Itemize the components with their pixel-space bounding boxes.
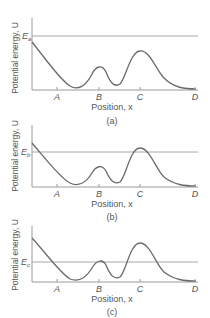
tick-label-b: B [96,284,102,294]
x-axis-label: Position, x [91,294,133,304]
tick-label-c: C [137,92,144,102]
y-axis-label: Potential energy, U [10,22,20,94]
y-axis-label: Potential energy, U [10,219,20,291]
tick-label-b: B [96,92,102,102]
energy-label-b: Eb [21,147,31,158]
tick-label-b: B [96,189,102,199]
tick-label-a: A [53,284,60,294]
panel-b: Potential energy, U Eb A B C D Position,… [10,120,199,222]
tick-label-a: A [53,92,60,102]
tick-label-c: C [137,189,144,199]
panel-c: Potential energy, U Ec A B C D Position,… [10,219,199,317]
potential-curve-c [32,238,196,281]
y-axis-label: Potential energy, U [10,120,20,192]
tick-label-d: D [192,189,199,199]
x-axis-label: Position, x [91,199,133,209]
tick-label-c: C [137,284,144,294]
energy-label-a: Ea [22,31,32,42]
caption-b: (b) [107,212,118,222]
potential-energy-diagram: Potential energy, U Ea A B C D Position,… [0,0,210,318]
panel-a: Potential energy, U Ea A B C D Position,… [10,18,199,126]
energy-label-c: Ec [21,257,30,268]
x-axis-label: Position, x [91,102,133,112]
potential-curve-b [32,143,196,186]
caption-a: (a) [107,116,118,126]
tick-label-d: D [192,284,199,294]
potential-curve-a [32,42,196,89]
tick-label-a: A [53,189,60,199]
caption-c: (c) [107,307,118,317]
tick-label-d: D [192,92,199,102]
